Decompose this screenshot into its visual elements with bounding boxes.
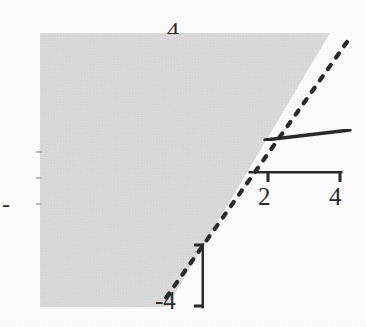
- x-tick-label-2: 2: [258, 184, 271, 209]
- y-tick-label-negative-4: -4: [155, 288, 176, 313]
- solid-line: [265, 130, 350, 140]
- shaded-region: [40, 33, 330, 307]
- figure-container: 2 4 -4 4 -: [0, 0, 366, 327]
- x-axis: [250, 172, 341, 181]
- y-tick-label-4-clipped: 4: [167, 18, 179, 34]
- x-tick-label-4: 4: [329, 184, 342, 209]
- x-tick-label-negative-clipped: -: [2, 192, 18, 216]
- plot-canvas: [0, 0, 366, 327]
